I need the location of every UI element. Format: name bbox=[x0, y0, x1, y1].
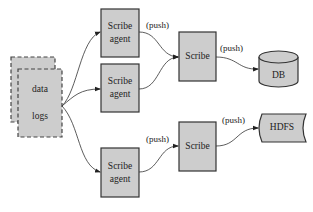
scribe-server-label-2: Scribe bbox=[179, 122, 216, 171]
data-logs-line1: data bbox=[32, 83, 48, 96]
hdfs-label: HDFS bbox=[260, 114, 304, 140]
scribe-agent-1-line2: agent bbox=[110, 33, 131, 46]
scribe-agent-1-line1: Scribe bbox=[108, 20, 132, 33]
db-label: DB bbox=[259, 64, 298, 86]
scribe-agent-2-line1: Scribe bbox=[108, 75, 132, 88]
scribe-agent-3-line2: agent bbox=[110, 173, 131, 186]
push-label-scribe-to-hdfs: (push) bbox=[222, 114, 245, 126]
data-logs-line2: logs bbox=[32, 110, 48, 123]
scribe-agent-label-3: Scribe agent bbox=[101, 148, 139, 197]
scribe-agent-label-1: Scribe agent bbox=[101, 9, 139, 57]
push-label-scribe-to-db: (push) bbox=[220, 42, 243, 54]
push-label-agent-to-scribe-top: (push) bbox=[146, 19, 169, 31]
scribe-server-label-1: Scribe bbox=[179, 32, 216, 81]
data-logs-label: data logs bbox=[18, 69, 62, 137]
scribe-agent-2-line2: agent bbox=[110, 88, 131, 101]
push-label-agent-to-scribe-bottom: (push) bbox=[146, 133, 169, 145]
scribe-agent-label-2: Scribe agent bbox=[101, 64, 139, 112]
scribe-agent-3-line1: Scribe bbox=[108, 160, 132, 173]
